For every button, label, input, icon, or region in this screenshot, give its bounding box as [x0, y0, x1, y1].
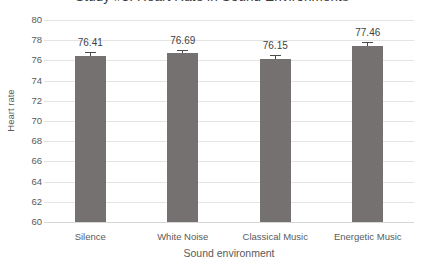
y-axis-tick-label: 78 — [10, 35, 42, 45]
y-axis-tick-label: 72 — [10, 96, 42, 106]
x-axis-tick-label: Energetic Music — [313, 232, 423, 242]
y-axis-tick-label: 76 — [10, 55, 42, 65]
error-bar-cap — [177, 50, 188, 51]
plot-area: 76.4176.6976.1577.46 — [44, 20, 414, 222]
bar-value-label: 76.69 — [148, 36, 218, 46]
bar-chart: Study #3: Heart Rate in Sound Environmen… — [0, 0, 424, 263]
y-axis-tick-label: 60 — [10, 217, 42, 227]
bar-value-label: 76.15 — [240, 41, 310, 51]
bar — [167, 53, 198, 222]
y-axis-tick-label: 66 — [10, 156, 42, 166]
error-bar-cap — [85, 52, 96, 53]
x-axis-title: Sound environment — [44, 247, 414, 259]
bar-value-label: 76.41 — [55, 38, 125, 48]
bar — [352, 46, 383, 222]
error-bar-cap — [362, 42, 373, 43]
error-bar-cap — [270, 55, 281, 56]
chart-title: Study #3: Heart Rate in Sound Environmen… — [0, 0, 424, 4]
y-axis-tick-label: 70 — [10, 116, 42, 126]
y-axis-tick-label: 80 — [10, 15, 42, 25]
y-axis-title: Heart rate — [5, 76, 16, 146]
gridline — [44, 222, 414, 223]
bar-value-label: 77.46 — [333, 28, 403, 38]
y-axis-tick-label: 62 — [10, 197, 42, 207]
y-axis-tick-label: 68 — [10, 136, 42, 146]
gridline — [44, 20, 414, 21]
bar — [260, 59, 291, 222]
bar — [75, 56, 106, 222]
y-axis-tick-label: 74 — [10, 76, 42, 86]
y-axis-tick-label: 64 — [10, 177, 42, 187]
